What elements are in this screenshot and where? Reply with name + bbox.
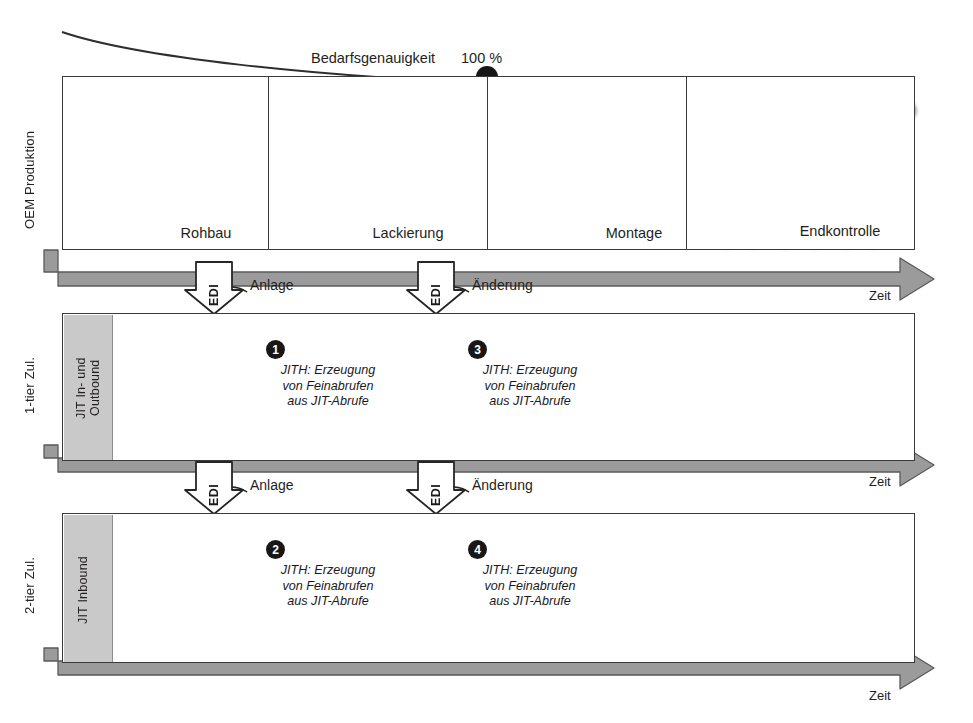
marker-bullet-3: 3 xyxy=(468,340,487,359)
note-line-1: JITH: Erzeugung xyxy=(460,363,600,379)
edi-label-2: EDI xyxy=(429,266,443,306)
note-text-3: JITH: Erzeugung von Feinabrufen aus JIT-… xyxy=(460,363,600,410)
note-line-1: JITH: Erzeugung xyxy=(258,363,398,379)
accuracy-percent-label: 100 % xyxy=(461,50,502,66)
accuracy-curve-label: Bedarfsgenauigkeit xyxy=(311,50,435,66)
marker-bullet-4: 4 xyxy=(468,540,487,559)
note-line-3: aus JIT-Abrufe xyxy=(460,594,600,610)
time-label-tier1: Zeit xyxy=(869,474,891,489)
note-line-2: von Feinabrufen xyxy=(258,579,398,595)
stage-divider-3 xyxy=(686,76,687,250)
note-line-1: JITH: Erzeugung xyxy=(258,563,398,579)
marker-bullet-2: 2 xyxy=(266,540,285,559)
edi-caption-2: Änderung xyxy=(472,277,533,293)
row-panel-label-tier1: JIT In- und Outbound xyxy=(74,330,102,446)
row-label-tier2: 2-tier Zul. xyxy=(22,530,40,640)
edi-label-3: EDI xyxy=(207,466,221,506)
stage-divider-2 xyxy=(487,76,488,250)
note-text-2: JITH: Erzeugung von Feinabrufen aus JIT-… xyxy=(258,563,398,610)
note-text-4: JITH: Erzeugung von Feinabrufen aus JIT-… xyxy=(460,563,600,610)
note-line-3: aus JIT-Abrufe xyxy=(460,394,600,410)
time-label-tier2: Zeit xyxy=(869,688,891,703)
note-line-3: aus JIT-Abrufe xyxy=(258,594,398,610)
stage-label-lackierung: Lackierung xyxy=(348,225,468,241)
row-label-oem: OEM Produktion xyxy=(22,110,40,250)
note-line-1: JITH: Erzeugung xyxy=(460,563,600,579)
edi-label-4: EDI xyxy=(429,466,443,506)
stage-label-montage: Montage xyxy=(578,225,690,241)
stage-label-endkontrolle: Endkontrolle xyxy=(778,223,902,239)
edi-label-1: EDI xyxy=(207,266,221,306)
stage-divider-1 xyxy=(268,76,269,250)
note-text-1: JITH: Erzeugung von Feinabrufen aus JIT-… xyxy=(258,363,398,410)
stage-label-rohbau: Rohbau xyxy=(158,225,254,241)
diagram-canvas: OEM Produktion Rohbau Lackierung Montage… xyxy=(0,0,973,723)
note-line-2: von Feinabrufen xyxy=(460,379,600,395)
row-label-tier1: 1-tier Zul. xyxy=(22,330,40,440)
note-line-2: von Feinabrufen xyxy=(460,579,600,595)
edi-caption-1: Anlage xyxy=(250,277,294,293)
edi-caption-4: Änderung xyxy=(472,477,533,493)
row-panel-label-tier2: JIT Inbound xyxy=(76,540,100,640)
time-label-oem: Zeit xyxy=(869,288,891,303)
edi-caption-3: Anlage xyxy=(250,477,294,493)
note-line-3: aus JIT-Abrufe xyxy=(258,394,398,410)
note-line-2: von Feinabrufen xyxy=(258,379,398,395)
marker-bullet-1: 1 xyxy=(266,340,285,359)
